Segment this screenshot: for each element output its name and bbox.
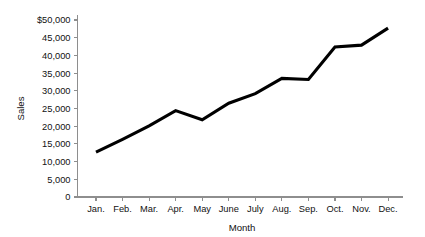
y-axis-tick-label: 25,000 [42,104,70,114]
x-axis-tick-label: May [193,204,211,214]
x-axis-title: Month [229,222,256,233]
y-axis-tick-label: 20,000 [42,122,70,132]
y-axis-title: Sales [15,96,26,120]
y-axis-tick-label: 5,000 [47,175,70,185]
x-axis-tick-label: Dec. [378,204,397,214]
x-axis-tick-label: Apr. [167,204,184,214]
x-axis-tick-label: Aug. [272,204,291,214]
x-axis-tick-labels: Jan.Feb.Mar.Apr.MayJuneJulyAug.Sep.Oct.N… [87,204,397,214]
x-axis-tick-label: Jan. [87,204,105,214]
x-axis-tick-label: Sep. [299,204,318,214]
x-axis-tick-label: Feb. [113,204,132,214]
x-axis [78,197,404,201]
y-axis-tick-label: 40,000 [42,51,70,61]
y-axis [74,15,78,197]
x-axis-tick-label: July [247,204,264,214]
y-axis-tick-label: 0 [65,192,70,202]
x-axis-tick-label: Oct. [326,204,343,214]
y-axis-tick-label: 10,000 [42,157,70,167]
y-axis-tick-label: 15,000 [42,139,70,149]
y-axis-tick-label: $50,000 [37,15,71,25]
y-axis-tick-labels: 05,00010,00015,00020,00025,00030,00035,0… [37,15,71,202]
x-axis-tick-label: Nov. [352,204,370,214]
y-axis-tick-label: 35,000 [42,69,70,79]
x-axis-tick-label: Mar. [140,204,158,214]
x-axis-tick-label: June [219,204,239,214]
y-axis-tick-label: 30,000 [42,86,70,96]
sales-data-line [96,28,388,152]
chart-canvas: 05,00010,00015,00020,00025,00030,00035,0… [0,0,425,237]
y-axis-tick-label: 45,000 [42,33,70,43]
sales-by-month-line-chart: 05,00010,00015,00020,00025,00030,00035,0… [0,0,425,237]
